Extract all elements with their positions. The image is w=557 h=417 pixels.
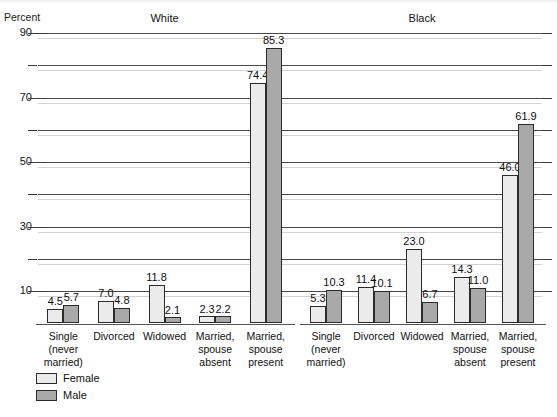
bar-value-label: 23.0 [400,235,428,247]
bar-black-divorced-female [358,287,374,324]
right-axis-tick-mark-40 [542,194,552,195]
y-axis-tick-mark-30 [36,227,46,228]
right-axis-tick-mark-70 [542,98,552,99]
bar-value-label: 61.9 [512,110,540,122]
right-axis-tick-mark-10 [542,291,552,292]
panel-title-black: Black [302,12,542,24]
legend-item-male: Male [36,389,87,401]
bar-value-label: 6.7 [416,288,444,300]
right-axis-tick-mark-20 [542,259,552,260]
right-axis-tick-mark-90 [542,33,552,34]
gridline-20 [38,259,542,260]
panel-baseline-white [36,324,295,325]
bar-value-label: 5.7 [57,291,85,303]
y-axis-minor-mark-40 [28,194,37,195]
bar-black-divorced-male [374,291,390,324]
bar-value-label: 11.8 [143,271,171,283]
gridline-ghost-80 [38,70,542,71]
y-axis-tick-label-70: 70 [6,91,32,103]
y-axis-tick-mark-70 [36,98,46,99]
gridline-ghost-50 [38,167,542,168]
y-axis-minor-mark-60 [28,130,37,131]
grouped-bar-chart: Percent 1030507090 White4.55.7Single (ne… [0,0,557,417]
bar-value-label: 2.2 [209,303,237,315]
gridline-ghost-40 [38,199,542,200]
legend-item-female: Female [36,372,100,384]
bar-white-single-female [47,309,63,324]
bar-white-single-male [63,305,79,323]
right-axis-tick-mark-50 [542,162,552,163]
gridline-70 [38,98,542,99]
bar-white-married-male [215,316,231,323]
bar-black-widowed-female [406,249,422,323]
panel-title-white: White [38,12,291,24]
gridline-40 [38,194,542,195]
gridline-ghost-70 [38,103,542,104]
y-axis-minor-mark-10 [28,291,37,292]
bar-black-married-male [518,124,534,324]
bar-black-married-male [470,288,486,324]
legend-label: Male [63,389,87,401]
gridline-ghost-60 [38,135,542,136]
legend-swatch-male [36,390,57,401]
gridline-60 [38,130,542,131]
bar-value-label: 10.1 [368,277,396,289]
y-axis-title: Percent [4,11,40,23]
y-axis-tick-label-50: 50 [6,155,32,167]
bar-value-label: 10.3 [320,276,348,288]
bar-black-single-male [326,290,342,323]
y-axis-tick-mark-90 [36,33,46,34]
right-axis-tick-mark-30 [542,227,552,228]
bar-value-label: 85.3 [260,34,288,46]
scan-edge [0,0,557,2]
y-axis-minor-mark-30 [28,227,37,228]
bar-black-widowed-male [422,302,438,324]
gridline-80 [38,65,542,66]
bar-white-divorced-male [114,308,130,323]
bar-value-label: 4.8 [108,294,136,306]
y-axis-minor-mark-80 [28,65,37,66]
category-label: Married, spouse present [488,330,548,369]
y-axis-minor-mark-90 [28,33,37,34]
bar-white-married-female [199,316,215,323]
bar-value-label: 11.0 [464,274,492,286]
y-axis-tick-mark-50 [36,162,46,163]
gridline-30 [38,227,542,228]
y-axis-minor-mark-20 [28,259,37,260]
panel-baseline-black [300,324,546,325]
y-axis-minor-mark-50 [28,162,37,163]
right-axis-tick-mark-60 [542,130,552,131]
y-axis-tick-label-30: 30 [6,220,32,232]
gridline-ghost-90 [38,38,542,39]
bar-value-label: 2.1 [159,304,187,316]
y-axis-tick-label-90: 90 [6,26,32,38]
category-label: Married, spouse present [234,330,297,369]
y-axis-minor-mark-70 [28,98,37,99]
gridline-ghost-30 [38,232,542,233]
legend-swatch-female [36,373,57,384]
gridline-50 [38,162,542,163]
bar-white-married-female [250,83,266,323]
bar-black-single-female [310,306,326,323]
right-axis-tick-mark-80 [542,65,552,66]
legend-label: Female [63,372,100,384]
y-axis-tick-mark-10 [36,291,46,292]
y-axis-tick-label-10: 10 [6,284,32,296]
bar-white-widowed-male [165,317,181,324]
bar-white-married-male [266,48,282,323]
bar-black-married-female [502,175,518,323]
gridline-90 [38,33,542,34]
